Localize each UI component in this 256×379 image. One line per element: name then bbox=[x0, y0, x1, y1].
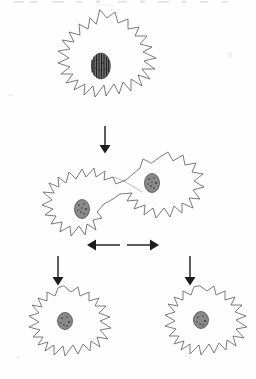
stage-3-left-nucleus bbox=[58, 313, 73, 330]
stage-1-nucleus bbox=[92, 53, 111, 79]
amoeba-fission-diagram bbox=[0, 0, 256, 379]
stage-2-nucleus-left bbox=[75, 200, 90, 219]
figure-page bbox=[0, 0, 256, 379]
stage-2-nucleus-right bbox=[145, 174, 160, 193]
stage-3-right-nucleus bbox=[194, 312, 209, 329]
